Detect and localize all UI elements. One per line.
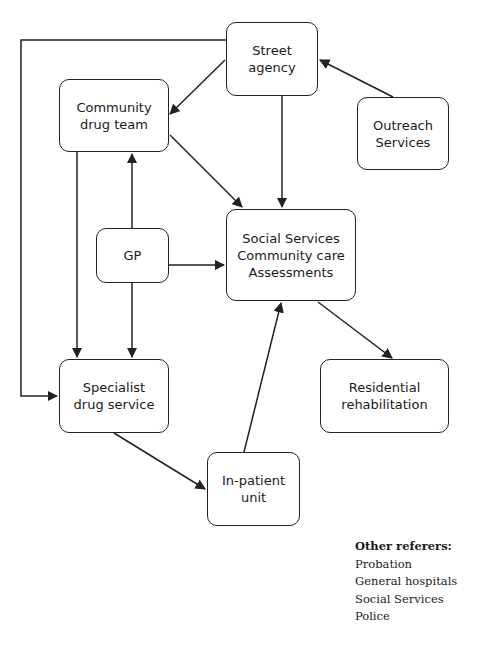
legend-item: Probation [355, 556, 457, 574]
node-specialist-drug-service: Specialist drug service [59, 359, 169, 433]
legend-item: General hospitals [355, 573, 457, 591]
node-label: Services [376, 134, 431, 151]
edge-specialist-to-inpatient [114, 433, 205, 489]
node-street-agency: Street agency [226, 22, 318, 96]
node-social-services: Social Services Community care Assessmen… [226, 209, 356, 301]
edge-inpatient-to-social [244, 303, 281, 452]
node-label: Residential [349, 379, 421, 396]
node-gp: GP [96, 228, 169, 283]
legend-title: Other referers: [355, 538, 457, 556]
node-label: Community [76, 99, 151, 116]
node-outreach-services: Outreach Services [357, 97, 449, 170]
edge-outreach-to-street [320, 60, 393, 97]
node-label: Outreach [373, 117, 433, 134]
edge-cdt-to-social [170, 135, 242, 207]
node-label: Specialist [83, 379, 145, 396]
node-label: Assessments [249, 264, 334, 281]
node-label: In-patient [222, 472, 285, 489]
node-label: drug service [74, 396, 155, 413]
node-label: unit [241, 489, 266, 506]
node-label: rehabilitation [341, 396, 427, 413]
node-label: GP [124, 247, 142, 264]
node-label: drug team [80, 116, 148, 133]
node-inpatient-unit: In-patient unit [207, 452, 300, 526]
node-residential-rehabilitation: Residential rehabilitation [320, 359, 449, 433]
legend-item: Social Services [355, 591, 457, 609]
edge-social-to-residential [318, 302, 392, 358]
other-referers-legend: Other referers: Probation General hospit… [355, 538, 457, 626]
node-label: agency [248, 59, 295, 76]
legend-item: Police [355, 608, 457, 626]
edge-street-to-cdt [170, 60, 225, 114]
node-label: Social Services [242, 230, 340, 247]
node-label: Community care [237, 247, 345, 264]
node-community-drug-team: Community drug team [59, 79, 169, 152]
node-label: Street [252, 42, 292, 59]
